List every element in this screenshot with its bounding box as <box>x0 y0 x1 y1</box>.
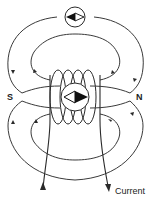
arrow-down-icon <box>105 184 111 192</box>
field-line-upper-inner <box>31 34 120 80</box>
arrow-icon <box>130 112 134 116</box>
field-line-lower-outer <box>8 101 143 180</box>
field-line-lower-inner <box>31 114 120 160</box>
arrow-icon <box>11 120 15 124</box>
south-pole-label: S <box>7 92 13 102</box>
arrow-icon <box>108 119 112 122</box>
compass-center <box>61 83 89 111</box>
arrow-icon <box>11 70 15 74</box>
arrow-icon <box>133 78 137 82</box>
arrow-up-icon <box>40 182 46 190</box>
arrow-icon <box>33 69 37 73</box>
solenoid-diagram <box>0 0 151 200</box>
compass-top <box>65 7 85 27</box>
current-label: Current <box>115 186 145 196</box>
north-pole-label: N <box>136 92 143 102</box>
field-line-upper-outer <box>8 17 143 93</box>
